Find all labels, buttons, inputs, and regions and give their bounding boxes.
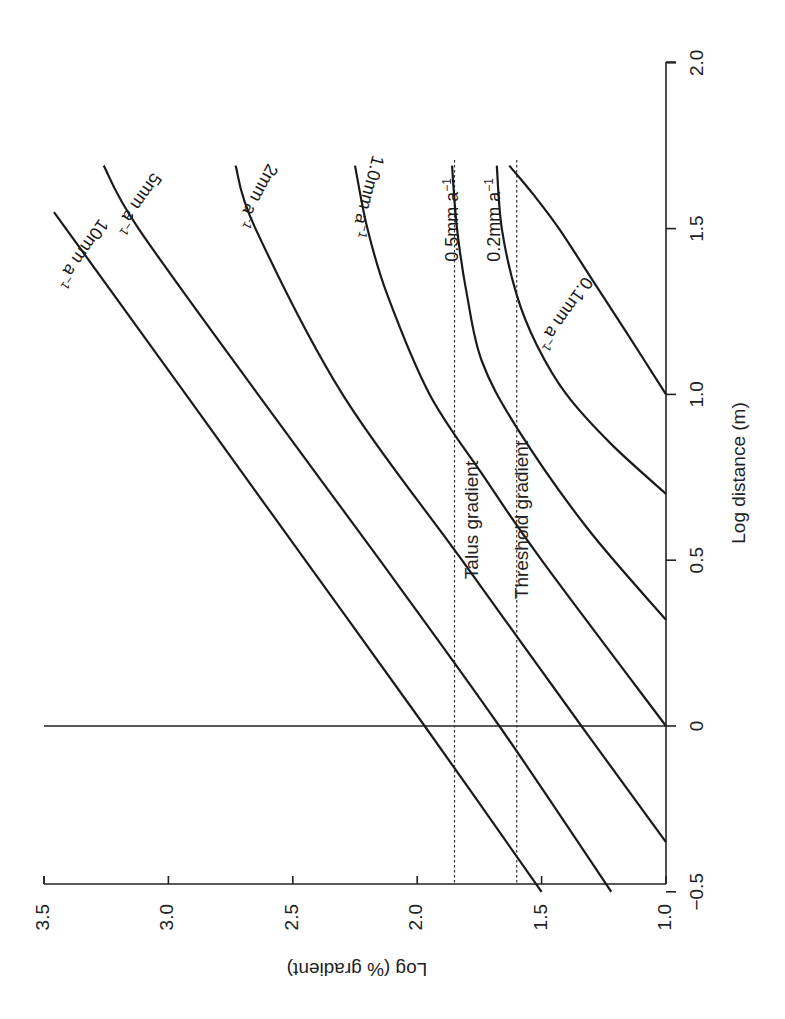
curves — [54, 166, 666, 892]
gradient-tick-label: 3.0 — [156, 904, 177, 930]
gradient-tick-label: 2.5 — [281, 904, 302, 930]
curve-label: 0.2mm a−1 — [482, 178, 504, 262]
curve-label: 2mm a−1 — [232, 161, 284, 232]
y-axis-title: Log (% gradient) — [287, 959, 427, 980]
curve-labels: 10mm a−15mm a−12mm a−11.0mm a−10.5mm a−1… — [51, 154, 599, 355]
curve-5mma — [104, 166, 612, 892]
distance-tick-label: 0 — [686, 721, 707, 732]
threshold-gradient-label: Threshold gradient — [511, 440, 532, 599]
x-axis-title: Log distance (m) — [728, 402, 749, 544]
gradient-tick-label: 1.5 — [530, 904, 551, 930]
distance-tick-label: 1.0 — [686, 381, 707, 407]
curve-label: 0.5mm a−1 — [440, 178, 462, 262]
distance-tick-label: 0.5 — [686, 547, 707, 573]
curve-2mma — [236, 166, 666, 842]
curve-label: 0.1mm a−1 — [533, 273, 599, 354]
distance-tick-label: 2.0 — [686, 50, 707, 76]
distance-tick-label: 1.5 — [686, 215, 707, 241]
gradient-tick-label: 1.0 — [654, 904, 675, 930]
talus-gradient-label: Talus gradient — [461, 460, 482, 579]
chart: 1.01.52.02.53.03.5−0.500.51.01.52.0 10mm… — [0, 0, 785, 1019]
curve-label: 1.0mm a−1 — [347, 154, 390, 241]
gradient-tick-label: 3.5 — [32, 904, 53, 930]
distance-tick-label: −0.5 — [686, 873, 707, 911]
gradient-tick-label: 2.0 — [405, 904, 426, 930]
